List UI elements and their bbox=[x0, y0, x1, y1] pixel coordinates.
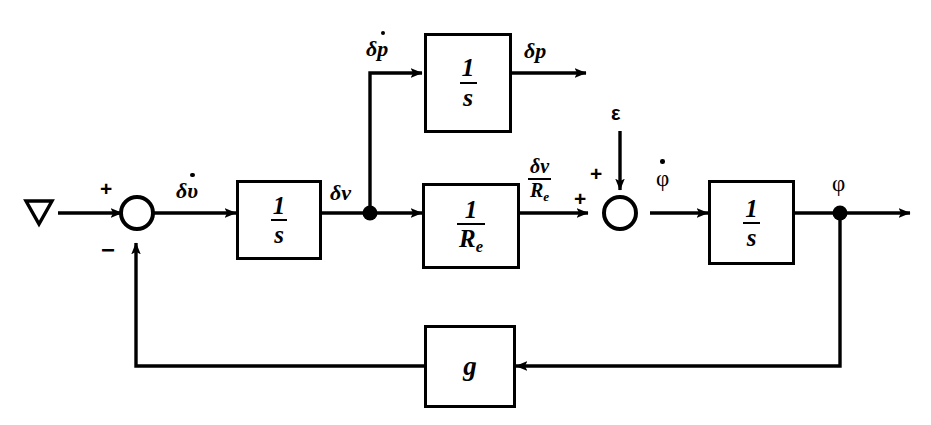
integrator-block-top-numerator: 1 bbox=[460, 54, 477, 82]
signal-label-phi-dot: φ bbox=[656, 167, 669, 190]
block-diagram-canvas: 1 s 1 s 1 Re 1 s g bbox=[0, 0, 931, 425]
delta-v-over-Re-denominator-subscript: e bbox=[543, 188, 549, 203]
signal-label-delta-p-dot: δp bbox=[366, 38, 388, 60]
nabla-input-icon bbox=[26, 201, 52, 224]
sum1-minus-sign: − bbox=[101, 238, 115, 262]
integrator-block-right: 1 s bbox=[708, 180, 795, 265]
phi-dot-accent-glyph: φ bbox=[656, 167, 669, 190]
wire-node-up-to-integrator-top bbox=[370, 73, 422, 213]
integrator-block-left-label: 1 s bbox=[239, 183, 319, 257]
delta-v-over-Re-denominator: Re bbox=[528, 178, 551, 204]
wire-feedback-gain-to-sum1 bbox=[136, 243, 424, 366]
p-dot-accent-glyph: p bbox=[377, 38, 388, 60]
branch-node-phi bbox=[833, 206, 848, 221]
delta-v-over-Re-numerator: δv bbox=[528, 156, 551, 178]
resistance-denominator-base: R bbox=[459, 225, 476, 252]
resistance-denominator-subscript: e bbox=[476, 237, 483, 256]
sum2-plus-sign-left: + bbox=[574, 188, 586, 209]
signal-label-epsilon: ε bbox=[611, 103, 621, 123]
resistance-block-numerator: 1 bbox=[457, 196, 485, 223]
integrator-block-top-denominator: s bbox=[460, 82, 477, 112]
signal-label-phi: φ bbox=[832, 172, 845, 195]
resistance-block-denominator: Re bbox=[457, 223, 485, 255]
integrator-block-top: 1 s bbox=[424, 33, 512, 133]
integrator-block-left-numerator: 1 bbox=[271, 192, 288, 219]
gain-block-label: g bbox=[427, 328, 513, 405]
integrator-block-left-denominator: s bbox=[271, 219, 288, 248]
gain-block: g bbox=[424, 325, 516, 408]
resistance-block-label: 1 Re bbox=[425, 186, 517, 266]
signal-label-delta-v-dot: δυ bbox=[176, 180, 198, 202]
v-dot-accent-glyph: υ bbox=[187, 180, 198, 202]
signal-label-delta-v: δv bbox=[330, 182, 351, 204]
delta-glyph-dp-dot: δ bbox=[366, 36, 377, 61]
summing-junction-1 bbox=[121, 197, 153, 229]
gain-block-value: g bbox=[463, 351, 477, 382]
summing-junction-2 bbox=[604, 197, 636, 229]
resistance-block: 1 Re bbox=[422, 183, 520, 269]
branch-node-delta-v bbox=[363, 206, 378, 221]
sum1-plus-sign: + bbox=[100, 178, 112, 199]
delta-v-over-Re-denominator-base: R bbox=[530, 179, 543, 201]
signal-label-delta-p: δp bbox=[524, 40, 546, 62]
integrator-block-left: 1 s bbox=[236, 180, 322, 260]
integrator-block-right-denominator: s bbox=[743, 222, 760, 251]
delta-glyph-dv-dot: δ bbox=[176, 178, 187, 203]
integrator-block-right-label: 1 s bbox=[711, 183, 792, 262]
integrator-block-top-label: 1 s bbox=[427, 36, 509, 130]
signal-label-delta-v-over-Re: δv Re bbox=[528, 156, 551, 204]
sum2-plus-sign-top: + bbox=[590, 163, 602, 184]
integrator-block-right-numerator: 1 bbox=[743, 195, 760, 222]
